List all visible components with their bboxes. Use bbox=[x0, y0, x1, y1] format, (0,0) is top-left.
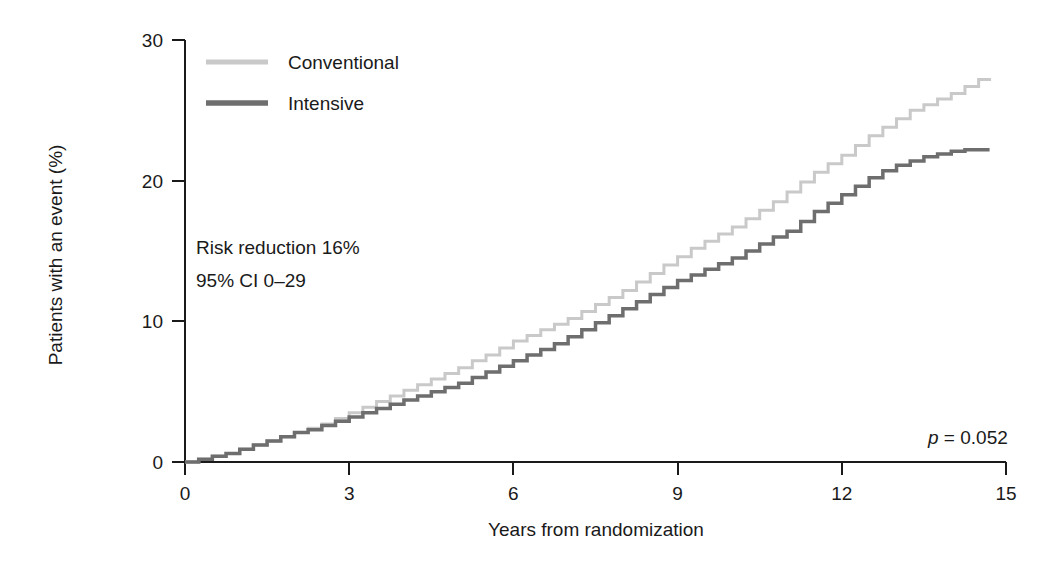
x-tick-label: 9 bbox=[672, 483, 683, 504]
y-tick-label: 20 bbox=[142, 171, 163, 192]
kaplan-meier-figure: 0102030 03691215 Conventional Intensive … bbox=[0, 0, 1057, 577]
curve-intensive bbox=[185, 150, 990, 462]
annotation-risk-reduction: Risk reduction 16% bbox=[196, 237, 360, 258]
chart-canvas: 0102030 03691215 Conventional Intensive … bbox=[0, 0, 1057, 577]
y-axis-tick-labels: 0102030 bbox=[142, 30, 163, 473]
x-tick-label: 0 bbox=[180, 483, 191, 504]
y-axis-ticks bbox=[172, 40, 185, 462]
x-axis-tick-labels: 03691215 bbox=[180, 483, 1017, 504]
x-tick-label: 15 bbox=[995, 483, 1016, 504]
x-tick-label: 3 bbox=[344, 483, 355, 504]
x-tick-label: 12 bbox=[831, 483, 852, 504]
y-tick-label: 30 bbox=[142, 30, 163, 51]
legend-label-conventional: Conventional bbox=[288, 52, 399, 73]
x-tick-label: 6 bbox=[508, 483, 519, 504]
annotation-p-symbol: p bbox=[927, 427, 939, 448]
x-axis-ticks bbox=[185, 462, 1006, 475]
y-tick-label: 10 bbox=[142, 311, 163, 332]
y-tick-label: 0 bbox=[152, 452, 163, 473]
annotation-confidence-interval: 95% CI 0–29 bbox=[196, 270, 306, 291]
chart-legend: Conventional Intensive bbox=[206, 52, 399, 114]
y-axis-title: Patients with an event (%) bbox=[45, 145, 66, 366]
annotation-p-value: p = 0.052 bbox=[927, 427, 1008, 448]
legend-label-intensive: Intensive bbox=[288, 93, 364, 114]
x-axis-title: Years from randomization bbox=[488, 519, 704, 540]
annotation-p-rest: = 0.052 bbox=[939, 427, 1008, 448]
